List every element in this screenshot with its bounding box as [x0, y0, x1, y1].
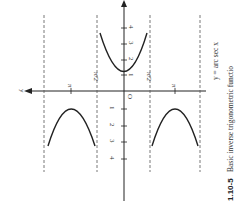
tick-label: 3 — [127, 41, 135, 45]
arcsec-branch-right — [152, 109, 198, 146]
caption-number: 1.10-5 — [226, 178, 235, 201]
origin-label: O — [126, 94, 134, 99]
tick-label: 4 — [108, 156, 116, 160]
arcsec-branch-left — [48, 109, 95, 146]
y-tick-label: π/2 — [145, 72, 153, 81]
x-axis-arrow-icon — [121, 0, 127, 7]
tick-label: 4 — [127, 25, 135, 29]
tick-label: 1 — [108, 106, 116, 110]
tick-label: 2 — [108, 123, 116, 127]
function-label: y = arc sec x — [211, 42, 220, 80]
y-axis-label: y — [18, 89, 26, 93]
caption-text: Basic inverse trigonometric functio — [226, 66, 235, 172]
tick-label: 2 — [127, 57, 135, 61]
y-tick-label: π — [170, 84, 178, 88]
tick-label: 1 — [127, 73, 135, 77]
tick-label: 3 — [108, 139, 116, 143]
arcsec-figure: y 1 2 3 4 1 2 3 4 O π/2 π π/2 π y = arc … — [0, 0, 236, 201]
y-tick-label: π/2 — [92, 72, 100, 81]
y-tick-label: π — [66, 84, 74, 88]
